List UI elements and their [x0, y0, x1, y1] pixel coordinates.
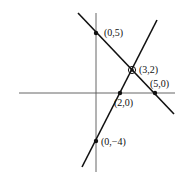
point-label: (0,−4) — [101, 136, 126, 148]
coordinate-graph: (0,5)(3,2)(5,0)(2,0)(0,−4) — [0, 0, 187, 181]
point-marker-icon — [153, 91, 157, 95]
point-marker-icon — [94, 31, 98, 35]
point-marker-icon — [118, 91, 122, 95]
point-marker-icon — [94, 139, 98, 143]
point-label: (5,0) — [150, 78, 169, 90]
point-label: (0,5) — [104, 27, 123, 39]
point-label: (2,0) — [114, 97, 133, 109]
point-label: (3,2) — [139, 64, 158, 76]
point-marker-icon — [130, 68, 134, 72]
